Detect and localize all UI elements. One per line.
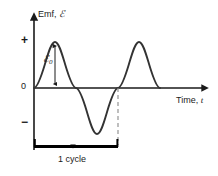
cycle-label: 1 cycle xyxy=(58,155,86,164)
amplitude-subscript: 0 xyxy=(49,58,53,66)
y-axis-title: Emf, ℰ xyxy=(38,10,65,20)
cycle-bracket xyxy=(34,139,118,149)
y-tick-positive: + xyxy=(21,34,28,46)
emf-script-e-symbol: ℰ xyxy=(59,9,65,19)
amplitude-label: ℰ0 xyxy=(43,55,53,66)
x-axis-title-text: Time, xyxy=(176,95,201,105)
y-axis-title-text: Emf, xyxy=(38,9,59,19)
time-variable-symbol: t xyxy=(201,95,204,105)
emf-waveform-figure: Emf, ℰ Time, t + 0 − ℰ0 1 cycle xyxy=(0,0,218,176)
y-tick-negative: − xyxy=(21,116,28,128)
plot-canvas xyxy=(0,0,218,176)
y-tick-zero: 0 xyxy=(21,82,26,91)
x-axis-title: Time, t xyxy=(176,96,203,105)
